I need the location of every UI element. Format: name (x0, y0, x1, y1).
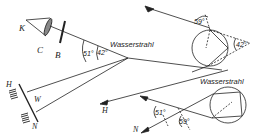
label-H-right: H (101, 106, 109, 115)
label-C: C (37, 45, 44, 55)
angle-bottom-right-right: 59° (179, 118, 190, 125)
left-apparatus (19, 18, 128, 122)
water-jet-label-right: Wasserstrahl (200, 77, 244, 86)
label-W: W (34, 95, 42, 104)
screen-hatch-H (9, 89, 18, 99)
angle-left-inner: 42° (97, 49, 108, 56)
label-B: B (55, 50, 61, 60)
screen-hatch-N (21, 113, 30, 123)
label-K: K (18, 23, 26, 33)
angle-left-outer: 51° (83, 50, 94, 57)
rainbow-optics-diagram: K C B 51° 42° Wasserstrahl H W N 59° 42°… (0, 0, 257, 137)
label-H-left: H (5, 80, 13, 89)
angle-top-right-incidence: 59° (194, 18, 205, 25)
water-jet-label-left: Wasserstrahl (110, 40, 154, 49)
label-N-left: N (31, 122, 38, 131)
label-N-right: N (132, 125, 139, 134)
angle-top-right-apex: 42° (236, 41, 247, 48)
angle-bottom-right-left: 51° (155, 109, 166, 116)
